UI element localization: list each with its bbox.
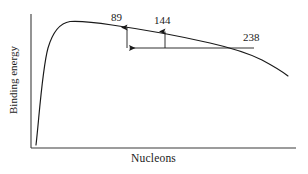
y-axis-label: Binding energy [7,46,19,114]
annotation-label-238: 238 [243,31,260,43]
binding-energy-curve-figure: Binding energy Nucleons 89 144 238 [0,0,308,174]
annotation-label-144: 144 [154,14,171,26]
x-axis-label: Nucleons [131,152,176,164]
chart-plot-area [0,0,308,174]
y-axis-label-container: Binding energy [4,30,22,130]
annotation-label-89: 89 [111,11,122,23]
